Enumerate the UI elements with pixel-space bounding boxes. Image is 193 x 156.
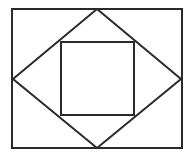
outer-rectangle [12,9,182,148]
nested-shapes-diagram [0,0,193,156]
inner-square [61,42,134,115]
diamond-rhombus [13,9,181,148]
